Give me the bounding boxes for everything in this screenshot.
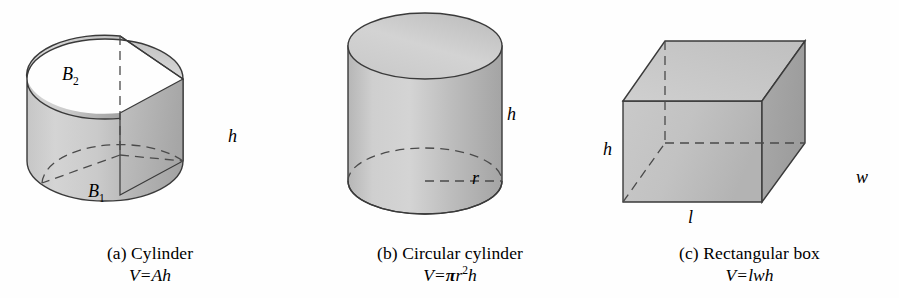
formula-circular-cylinder: V=πr2h [300, 265, 600, 286]
caption-circular-cylinder: (b) Circular cylinder V=πr2h [300, 243, 600, 285]
label-bottom-base-subscript: 1 [99, 192, 105, 204]
formula-height: h [468, 265, 477, 285]
formula-pi-symbol: π [446, 265, 456, 285]
cylinder-top-edge-right [120, 36, 183, 79]
formula-rectangular-box: V=lwh [600, 265, 899, 286]
label-height-h: h [507, 104, 516, 125]
label-radius-r: r [472, 168, 479, 189]
formula-equals: = [434, 265, 446, 285]
label-top-base-B2: B2 [62, 64, 79, 85]
circular-cylinder-solid-drawing [300, 0, 600, 243]
label-bottom-base-letter: B [88, 181, 99, 201]
cylinder-solid-drawing [0, 0, 300, 243]
formula-lhs: V [423, 265, 434, 285]
formula-rhs: lwh [748, 265, 773, 285]
label-height-h: h [603, 139, 612, 160]
formula-lhs: V [129, 265, 140, 285]
label-width-w: w [856, 167, 868, 188]
label-bottom-base-B1: B1 [88, 181, 105, 202]
caption-title-circular-cylinder: (b) Circular cylinder [300, 243, 600, 264]
box-front-face [623, 101, 762, 202]
caption-cylinder: (a) Cylinder V=Ah [0, 243, 300, 285]
formula-cylinder: V=Ah [0, 265, 300, 286]
geometry-figure-panel-group: B2 B1 h (a) Cylinder V=Ah [0, 0, 899, 298]
caption-title-cylinder: (a) Cylinder [0, 243, 300, 264]
cylinder-top-base-face [27, 35, 183, 79]
formula-lhs: V [726, 265, 737, 285]
label-length-l: l [688, 207, 693, 228]
caption-rectangular-box: (c) Rectangular box V=lwh [600, 243, 899, 285]
formula-equals: = [140, 265, 152, 285]
formula-equals: = [736, 265, 748, 285]
label-height-h: h [228, 126, 237, 147]
formula-rhs: Ah [152, 265, 171, 285]
caption-title-rectangular-box: (c) Rectangular box [600, 243, 899, 264]
label-top-base-subscript: 2 [73, 75, 79, 87]
rectangular-box-solid-drawing [600, 0, 899, 243]
label-top-base-letter: B [62, 64, 73, 84]
figure-panel-cylinder: B2 B1 h (a) Cylinder V=Ah [0, 0, 300, 298]
figure-panel-rectangular-box: h w l (c) Rectangular box V=lwh [600, 0, 899, 298]
figure-panel-circular-cylinder: r h (b) Circular cylinder V=πr2h [300, 0, 600, 298]
circular-cylinder-top-face [348, 13, 502, 79]
